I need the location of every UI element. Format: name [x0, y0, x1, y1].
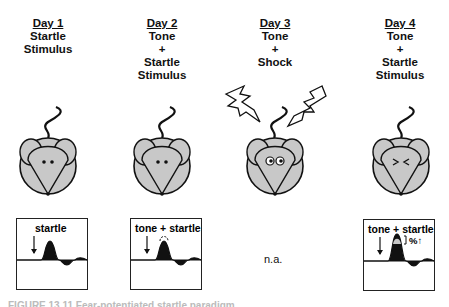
- label-line: Stimulus: [3, 43, 93, 56]
- label-line: +: [355, 43, 445, 56]
- panel-label: startle: [35, 222, 67, 234]
- label-line: +: [117, 43, 207, 56]
- response-panel-day1: startle: [16, 218, 88, 290]
- label-line: Tone: [230, 30, 320, 43]
- day-heading: Day 1: [3, 17, 93, 30]
- mouse-icon-day1: [18, 104, 80, 196]
- panel-label: tone + startle: [368, 223, 434, 235]
- label-line: Startle: [117, 56, 207, 69]
- response-panel-day2: tone + startle: [130, 218, 202, 290]
- label-line: +: [230, 43, 320, 56]
- label-line: Startle: [355, 56, 445, 69]
- percent-increase-annotation: %↑: [409, 235, 422, 246]
- response-panel-day4: tone + startle %↑: [363, 219, 435, 291]
- label-line: Stimulus: [117, 69, 207, 82]
- panel-label: tone + startle: [135, 222, 201, 234]
- day-heading: Day 2: [117, 17, 207, 30]
- day-heading: Day 3: [230, 17, 320, 30]
- day4-label: Day 4 Tone + Startle Stimulus: [355, 17, 445, 82]
- mouse-icon-day3-shocked: [214, 82, 334, 196]
- label-line: Tone: [117, 30, 207, 43]
- mouse-icon-day4-afraid: [371, 104, 433, 196]
- day-heading: Day 4: [355, 17, 445, 30]
- figure-caption: FIGURE 13.11 Fear-potentiated startle pa…: [8, 300, 235, 307]
- label-line: Tone: [355, 30, 445, 43]
- mouse-icon-day2: [132, 104, 194, 196]
- label-line: Shock: [230, 56, 320, 69]
- day3-label: Day 3 Tone + Shock: [230, 17, 320, 69]
- day2-label: Day 2 Tone + Startle Stimulus: [117, 17, 207, 82]
- not-applicable-label: n.a.: [264, 253, 282, 265]
- label-line: Startle: [3, 30, 93, 43]
- day1-label: Day 1 Startle Stimulus: [3, 17, 93, 56]
- label-line: Stimulus: [355, 69, 445, 82]
